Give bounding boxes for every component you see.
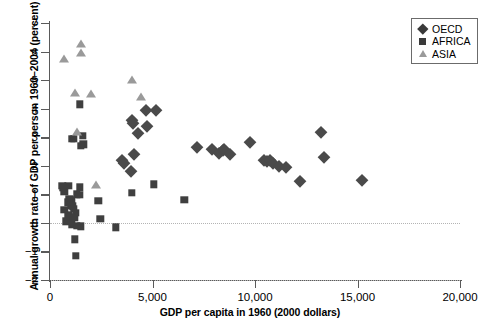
x-tick-mark bbox=[460, 280, 461, 288]
y-tick-label: 1 bbox=[32, 188, 38, 200]
y-tick-mark bbox=[41, 109, 50, 110]
data-point-africa bbox=[181, 196, 188, 203]
y-tick-label: −2 bbox=[25, 274, 38, 286]
data-point-africa bbox=[94, 197, 101, 204]
data-point-asia bbox=[91, 181, 101, 189]
y-tick-label: −1 bbox=[25, 245, 38, 257]
y-tick-mark bbox=[41, 80, 50, 81]
y-tick-label: 6 bbox=[32, 46, 38, 58]
y-tick-mark bbox=[41, 280, 50, 281]
x-tick-label: 0 bbox=[47, 291, 53, 303]
y-tick-mark bbox=[41, 166, 50, 167]
legend-item-africa: AFRICA bbox=[416, 35, 471, 47]
data-point-asia bbox=[136, 93, 146, 101]
legend: OECD AFRICA ASIA bbox=[411, 18, 478, 64]
data-point-africa bbox=[150, 181, 157, 188]
x-tick-label: 10,000 bbox=[237, 291, 272, 303]
data-point-africa bbox=[76, 191, 83, 198]
y-tick-label: 2 bbox=[32, 160, 38, 172]
data-point-oecd bbox=[150, 104, 162, 116]
x-tick-mark bbox=[358, 280, 359, 288]
data-point-oecd bbox=[244, 135, 256, 147]
square-icon bbox=[416, 38, 429, 45]
y-tick-mark bbox=[41, 23, 50, 24]
x-tick-mark bbox=[255, 280, 256, 288]
legend-label-asia: ASIA bbox=[432, 48, 456, 60]
data-point-oecd bbox=[191, 141, 203, 153]
plot-area: −2−10123456705,00010,00015,00020,000 bbox=[50, 23, 460, 280]
data-point-africa bbox=[97, 215, 104, 222]
scatter-chart: Annual growth rate of GDP per person 196… bbox=[0, 0, 500, 331]
x-axis-title: GDP per capita in 1960 (2000 dollars) bbox=[0, 306, 500, 318]
data-point-oecd bbox=[294, 175, 306, 187]
data-point-africa bbox=[77, 223, 84, 230]
data-point-oecd bbox=[125, 165, 137, 177]
x-tick-mark bbox=[153, 280, 154, 288]
legend-item-asia: ASIA bbox=[416, 48, 471, 60]
data-point-africa bbox=[76, 101, 83, 108]
data-point-asia bbox=[59, 54, 69, 62]
data-point-oecd bbox=[128, 148, 140, 160]
y-tick-label: 4 bbox=[32, 103, 38, 115]
x-tick-label: 15,000 bbox=[340, 291, 375, 303]
legend-label-africa: AFRICA bbox=[432, 35, 471, 47]
data-point-oecd bbox=[315, 125, 327, 137]
data-point-africa bbox=[128, 189, 135, 196]
y-tick-mark bbox=[41, 194, 50, 195]
legend-label-oecd: OECD bbox=[432, 23, 462, 35]
y-tick-label: 5 bbox=[32, 74, 38, 86]
triangle-icon bbox=[416, 50, 429, 57]
data-point-africa bbox=[112, 223, 119, 230]
data-point-oecd bbox=[318, 151, 330, 163]
y-tick-label: 0 bbox=[32, 217, 38, 229]
data-point-oecd bbox=[132, 127, 144, 139]
legend-item-oecd: OECD bbox=[416, 23, 471, 35]
y-tick-label: 7 bbox=[32, 17, 38, 29]
data-point-africa bbox=[77, 142, 84, 149]
data-point-asia bbox=[70, 89, 80, 97]
data-point-asia bbox=[76, 40, 86, 48]
y-tick-mark bbox=[41, 52, 50, 53]
data-point-oecd bbox=[224, 148, 236, 160]
y-tick-mark bbox=[41, 223, 50, 224]
y-tick-mark bbox=[41, 251, 50, 252]
data-point-africa bbox=[71, 236, 78, 243]
data-point-asia bbox=[76, 49, 86, 57]
data-point-asia bbox=[72, 127, 82, 135]
diamond-icon bbox=[416, 25, 429, 33]
data-point-oecd bbox=[141, 120, 153, 132]
y-tick-label: 3 bbox=[32, 131, 38, 143]
x-tick-mark bbox=[50, 280, 51, 288]
data-point-oecd bbox=[356, 174, 368, 186]
data-point-asia bbox=[86, 89, 96, 97]
y-tick-mark bbox=[41, 137, 50, 138]
data-point-africa bbox=[72, 252, 79, 259]
x-tick-label: 5,000 bbox=[138, 291, 167, 303]
x-tick-label: 20,000 bbox=[442, 291, 477, 303]
data-point-asia bbox=[127, 75, 137, 83]
